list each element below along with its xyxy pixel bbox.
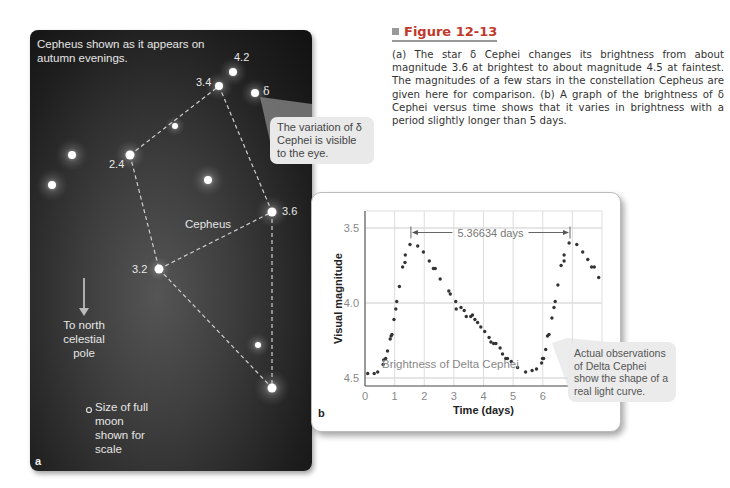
star-label-3-6: 3.6 [282, 205, 297, 217]
data-point [416, 244, 419, 247]
moon-scale-label: Size of full moon shown for scale [95, 400, 155, 456]
x-tick-label: 3 [451, 390, 457, 402]
data-point [392, 318, 395, 321]
data-point [559, 264, 562, 267]
data-point [408, 243, 411, 246]
data-point [476, 321, 479, 324]
data-point [428, 259, 431, 262]
y-axis-title: Visual magnitude [332, 253, 344, 344]
full-moon-size-icon [87, 408, 92, 413]
data-point [530, 369, 533, 372]
data-point [547, 333, 550, 336]
figure-title: Figure 12-13 [392, 24, 497, 42]
data-point [454, 300, 457, 303]
data-point [395, 300, 398, 303]
data-point [459, 306, 462, 309]
data-point [398, 285, 401, 288]
data-point [524, 370, 527, 373]
bullet-square-icon [392, 28, 399, 35]
data-point [449, 292, 452, 295]
constellation-label: Cepheus [185, 217, 231, 231]
x-tick-label: 0 [362, 390, 368, 402]
star-label-3-4: 3.4 [196, 76, 211, 88]
data-point [439, 277, 442, 280]
delta-variation-callout: The variation of δ Cephei is visible to … [270, 117, 374, 164]
data-point [575, 243, 578, 246]
data-point [463, 309, 466, 312]
data-point [403, 261, 406, 264]
data-point [479, 325, 482, 328]
data-point [473, 318, 476, 321]
arrowhead-left-icon [412, 230, 418, 235]
data-point [404, 253, 407, 256]
data-point [376, 370, 379, 373]
data-point [567, 241, 570, 244]
figure-title-text: Figure 12-13 [404, 24, 497, 39]
north-arrow-icon [79, 278, 89, 316]
data-point [535, 367, 538, 370]
chart-inner-label: Brightness of Delta Cephei [382, 357, 519, 371]
data-point [494, 342, 497, 345]
data-point [487, 336, 490, 339]
data-point [581, 250, 584, 253]
data-point [556, 283, 559, 286]
figure-caption: (a) The star δ Cephei changes its bright… [392, 48, 724, 127]
data-point [586, 258, 589, 261]
x-axis-title: Time (days) [453, 404, 514, 416]
star-label-2-4: 2.4 [109, 158, 124, 170]
panel-a-header: Cepheus shown as it appears on autumn ev… [37, 37, 217, 65]
data-point [447, 289, 450, 292]
north-pole-label: To north celestial pole [52, 318, 116, 360]
data-point [501, 352, 504, 355]
data-point [390, 333, 393, 336]
data-point [401, 265, 404, 268]
data-point [593, 265, 596, 268]
data-point [483, 330, 486, 333]
data-point [554, 300, 557, 303]
data-point [552, 306, 555, 309]
data-point [544, 348, 547, 351]
y-tick-label: 4.0 [344, 297, 359, 309]
data-point [434, 267, 437, 270]
data-point [498, 346, 501, 349]
x-tick-label: 1 [392, 390, 398, 402]
y-tick-label: 3.5 [344, 222, 359, 234]
data-point [394, 307, 397, 310]
data-point [389, 337, 392, 340]
data-point [562, 253, 565, 256]
panel-a-sky-image: Cepheus shown as it appears on autumn ev… [30, 30, 312, 471]
star-label-3-2: 3.2 [132, 263, 147, 275]
x-tick-label: 5 [510, 390, 516, 402]
data-point [386, 349, 389, 352]
data-point [562, 259, 565, 262]
x-tick-label: 6 [540, 390, 546, 402]
observations-callout: Actual observations of Delta Cephei show… [568, 342, 676, 402]
data-point [471, 313, 474, 316]
data-point [597, 276, 600, 279]
data-point [540, 361, 543, 364]
star-label-delta: δ [263, 85, 270, 98]
y-tick-label: 4.5 [344, 372, 359, 384]
panel-a-letter: a [35, 455, 41, 467]
data-point [373, 372, 376, 375]
arrowhead-right-icon [563, 230, 569, 235]
data-point [366, 372, 369, 375]
panel-b-letter: b [318, 407, 325, 419]
data-point [455, 307, 458, 310]
data-point [542, 357, 545, 360]
x-tick-label: 2 [421, 390, 427, 402]
data-point [465, 315, 468, 318]
period-label: 5.36634 days [457, 227, 524, 239]
star-label-4-2: 4.2 [234, 51, 249, 63]
data-point [550, 316, 553, 319]
x-tick-label: 4 [480, 390, 486, 402]
data-point [422, 250, 425, 253]
